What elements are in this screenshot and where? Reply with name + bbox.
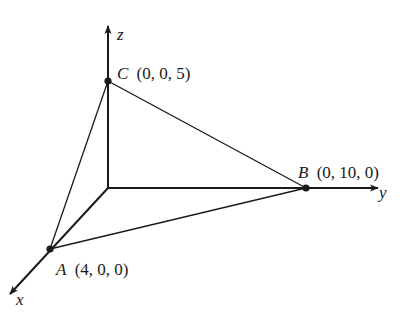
y-axis-label: y bbox=[377, 183, 387, 202]
point-b-marker bbox=[302, 184, 309, 191]
point-a-coords: (4, 0, 0) bbox=[75, 260, 129, 279]
point-b-name: B bbox=[298, 163, 309, 182]
point-a-label: A (4, 0, 0) bbox=[55, 260, 128, 279]
point-c-coords: (0, 0, 5) bbox=[137, 64, 191, 83]
x-axis-label: x bbox=[15, 290, 24, 309]
edge-ca bbox=[50, 81, 108, 249]
edge-ab bbox=[50, 188, 306, 249]
point-b-coords: (0, 10, 0) bbox=[317, 163, 379, 182]
point-b-label: B (0, 10, 0) bbox=[298, 163, 379, 182]
point-c-marker bbox=[104, 77, 111, 84]
point-a-marker bbox=[46, 245, 53, 252]
point-c-label: C (0, 0, 5) bbox=[117, 64, 190, 83]
point-a-name: A bbox=[55, 260, 67, 279]
point-c-name: C bbox=[117, 64, 129, 83]
edge-cb bbox=[108, 81, 306, 188]
3d-coordinate-diagram: z y x C (0, 0, 5) B (0, 10, 0) A (4, 0, … bbox=[0, 0, 408, 316]
z-axis-label: z bbox=[116, 25, 124, 44]
